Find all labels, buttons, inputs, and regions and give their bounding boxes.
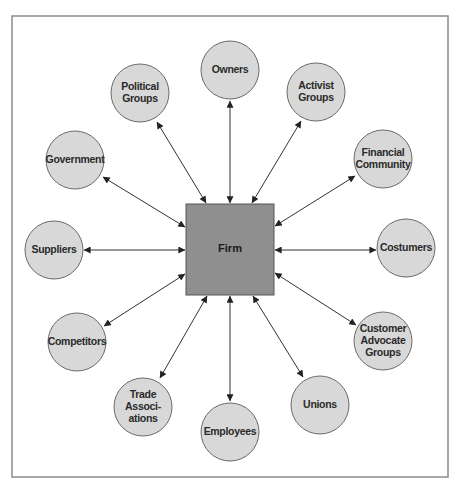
node-label: Political <box>121 80 159 92</box>
arrow-customer-advocate-groups <box>275 273 356 325</box>
node-competitors: Competitors <box>48 313 107 371</box>
node-financial-community: FinancialCommunity <box>354 130 412 188</box>
node-government: Government <box>46 131 106 189</box>
node-label: Suppliers <box>31 243 77 255</box>
node-label: Costumers <box>380 241 433 253</box>
arrow-financial-community <box>275 176 355 226</box>
node-label: Activist <box>298 79 334 91</box>
node-label: Owners <box>212 63 249 75</box>
stakeholder-diagram: Firm OwnersPoliticalGroupsActivistGroups… <box>0 0 456 493</box>
node-label: Government <box>46 153 106 165</box>
node-label: Financial <box>362 146 405 158</box>
node-customer-advocate-groups: CustomerAdvocateGroups <box>354 312 412 370</box>
node-label: Groups <box>298 91 334 103</box>
node-label: Competitors <box>48 335 107 347</box>
node-label: Groups <box>122 92 158 104</box>
node-label: Community <box>355 158 411 170</box>
node-label: Groups <box>365 346 401 358</box>
arrow-trade-associations <box>160 296 207 378</box>
arrow-unions <box>253 296 303 377</box>
node-activist-groups: ActivistGroups <box>287 63 345 121</box>
node-label: ations <box>128 412 158 424</box>
node-label: Trade <box>130 388 157 400</box>
arrow-competitors <box>104 274 185 326</box>
node-employees: Employees <box>201 403 259 461</box>
firm-label: Firm <box>218 242 242 254</box>
node-owners: Owners <box>201 41 259 99</box>
arrow-government <box>103 177 185 227</box>
node-suppliers: Suppliers <box>25 221 83 279</box>
node-political-groups: PoliticalGroups <box>111 64 169 122</box>
arrow-activist-groups <box>252 121 301 203</box>
node-label: Employees <box>204 425 257 437</box>
node-label: Associ- <box>125 400 162 412</box>
node-label: Advocate <box>361 334 406 346</box>
node-trade-associations: TradeAssoci-ations <box>114 378 172 436</box>
node-unions: Unions <box>291 376 349 434</box>
arrow-political-groups <box>157 122 206 203</box>
node-costumers: Costumers <box>377 219 435 277</box>
node-label: Unions <box>303 398 337 410</box>
node-label: Customer <box>360 322 407 334</box>
